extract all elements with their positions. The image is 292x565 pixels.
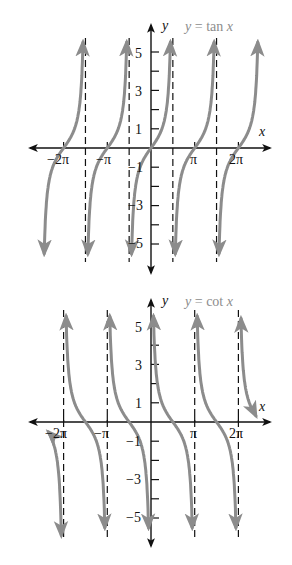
tan-axis-y-label: y	[160, 18, 169, 33]
cot-xtick-2pi: 2π	[229, 426, 243, 441]
tan-ytick-3: 3	[135, 84, 142, 99]
cot-ytick-3: 3	[135, 358, 142, 373]
tan-xtick-negpi: −π	[96, 152, 111, 167]
tan-ytick-5: 5	[135, 46, 142, 61]
cot-graph: y x y = cot x 5 3 1 −1 −3 −5 −2π −π π 2π	[30, 293, 270, 546]
cot-ytick-n5: −5	[126, 510, 141, 525]
tan-xtick-pi: π	[190, 152, 197, 167]
tan-xtick-neg2pi: −2π	[47, 152, 69, 167]
function-branch	[241, 318, 256, 415]
tan-axis-x-label: x	[258, 124, 266, 139]
tan-xtick-2pi: 2π	[229, 152, 243, 167]
trig-graphs-figure: y x y = tan x 5 3 1 −1 −3 −5 −2π −π π 2π…	[0, 0, 292, 565]
cot-axis-x-label: x	[258, 399, 266, 414]
tan-ytick-n5: −5	[128, 236, 143, 251]
tan-ytick-1: 1	[135, 122, 142, 137]
tan-graph: y x y = tan x 5 3 1 −1 −3 −5 −2π −π π 2π	[30, 18, 270, 273]
cot-xtick-neg2pi: −2π	[45, 426, 67, 441]
tan-title: y = tan x	[183, 19, 234, 34]
cot-ytick-5: 5	[135, 320, 142, 335]
cot-xtick-pi: π	[190, 426, 197, 441]
cot-ytick-n1: −1	[126, 434, 141, 449]
function-branch	[48, 432, 61, 536]
cot-xtick-negpi: −π	[94, 426, 109, 441]
cot-curves	[48, 316, 256, 535]
cot-axis-y-label: y	[160, 293, 169, 308]
cot-ytick-n3: −3	[126, 472, 141, 487]
cot-title: y = cot x	[183, 294, 234, 309]
cot-ytick-1: 1	[135, 396, 142, 411]
tan-ytick-n3: −3	[128, 198, 143, 213]
tan-ytick-n1: −1	[128, 160, 143, 175]
